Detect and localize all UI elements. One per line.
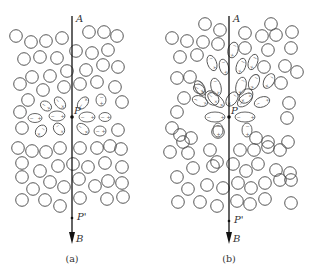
molecule-circle [164, 146, 177, 159]
molecule-circle [191, 49, 204, 62]
molecule-circle [283, 97, 296, 110]
molecule-circle [117, 191, 130, 204]
panel-a: −+−+−+−+−+−+−+−+−+−+−+−+PP'AB(a) [10, 13, 130, 264]
molecule-circle [116, 96, 129, 109]
molecule-circle [171, 72, 184, 85]
arrowhead-icon [69, 232, 75, 244]
molecule-circle [259, 193, 272, 206]
molecule-circle [282, 136, 295, 149]
molecule-circle [182, 183, 195, 196]
molecule-circle [86, 47, 99, 60]
molecule-circle [83, 26, 96, 39]
molecule-circle [262, 44, 275, 57]
svg-text:−: − [240, 58, 246, 65]
molecule-circle [44, 176, 57, 189]
svg-text:−: − [232, 42, 238, 49]
polarized-molecule: −+ [226, 41, 240, 59]
molecule-circle [270, 29, 283, 42]
svg-text:+: + [38, 115, 42, 121]
molecule-circle [16, 194, 29, 207]
polarized-molecule: −+ [253, 95, 271, 110]
molecule-circle [74, 142, 87, 155]
svg-text:+: + [251, 114, 255, 120]
polarized-molecule: −+ [191, 94, 209, 109]
molecule-circle [256, 30, 269, 43]
molecule-circle [171, 171, 184, 184]
label-p: P [230, 105, 238, 116]
molecule-circle [212, 38, 225, 51]
polarized-molecule: −+ [51, 121, 67, 137]
label-b: B [232, 233, 240, 244]
svg-text:−: − [30, 115, 34, 121]
molecule-circle [16, 171, 29, 184]
molecule-circle [26, 145, 39, 158]
molecule-circle [217, 182, 230, 195]
label-a: A [232, 13, 240, 24]
svg-text:−: − [193, 96, 199, 103]
molecule-circle [27, 183, 40, 196]
molecule-circle [259, 177, 272, 190]
molecule-circle [239, 42, 252, 55]
svg-text:−: − [96, 128, 100, 134]
molecule-circle [112, 124, 125, 137]
label-p: P [73, 105, 81, 116]
molecule-circle [80, 64, 93, 77]
molecule-circle [82, 161, 95, 174]
molecule-circle [98, 26, 111, 39]
molecule-circle [54, 142, 67, 155]
molecule-circle [207, 160, 220, 173]
polarized-molecule: −+ [96, 94, 106, 106]
molecule-circle [201, 179, 214, 192]
label-p-prime: P' [233, 214, 243, 225]
molecule-circle [199, 18, 212, 31]
molecule-circle [211, 200, 224, 213]
molecule-circle [37, 84, 50, 97]
molecule-circle [51, 52, 64, 65]
polarized-molecule: −+ [213, 123, 223, 137]
molecule-circle [279, 60, 292, 73]
svg-text:−: − [252, 54, 258, 61]
molecule-circle [166, 122, 179, 135]
molecule-circle [281, 112, 294, 125]
polarized-molecule: −+ [235, 112, 255, 122]
molecule-circle [97, 59, 110, 72]
molecule-circle [274, 144, 287, 157]
panel-caption: (a) [65, 253, 78, 264]
molecule-circle [239, 27, 252, 40]
svg-text:−: − [212, 78, 218, 85]
molecule-circle [18, 53, 31, 66]
molecule-circle [22, 94, 35, 107]
molecule-circle [285, 42, 298, 55]
svg-text:+: + [102, 128, 106, 134]
molecule-circle [171, 106, 184, 119]
polarized-molecule: −+ [94, 126, 106, 136]
polarized-molecule: −+ [242, 123, 252, 137]
polarized-molecule: −+ [205, 112, 225, 122]
panel-b: −+−+−+−+−+−+−+−+−+−+−+−+−+−+−+−+−+−+−+−+… [164, 13, 304, 264]
molecule-circle [244, 198, 257, 211]
molecule-circle [102, 44, 115, 57]
polarized-molecule: −+ [49, 111, 65, 121]
molecule-circle [112, 61, 125, 74]
molecule-circle [240, 165, 253, 178]
molecule-circle [99, 157, 112, 170]
molecule-circle [194, 196, 207, 209]
molecule-circle [172, 196, 185, 209]
molecule-circle [252, 158, 265, 171]
molecule-circle [67, 158, 80, 171]
svg-text:−: − [255, 100, 261, 107]
molecule-circle [58, 81, 71, 94]
molecule-circle [258, 61, 271, 74]
svg-text:+: + [46, 104, 53, 111]
molecule-circle [74, 192, 87, 205]
label-a: A [75, 13, 83, 24]
molecule-circle [178, 92, 191, 105]
svg-text:−: − [51, 113, 55, 119]
molecule-circle [91, 142, 104, 155]
molecule-circle [74, 78, 87, 91]
molecule-circle [10, 30, 23, 43]
molecule-circle [58, 181, 71, 194]
svg-text:+: + [202, 99, 208, 106]
polarized-molecule: −+ [205, 54, 219, 72]
polarization-diagram: −+−+−+−+−+−+−+−+−+−+−+−+PP'AB(a) −+−+−+−… [0, 0, 314, 275]
